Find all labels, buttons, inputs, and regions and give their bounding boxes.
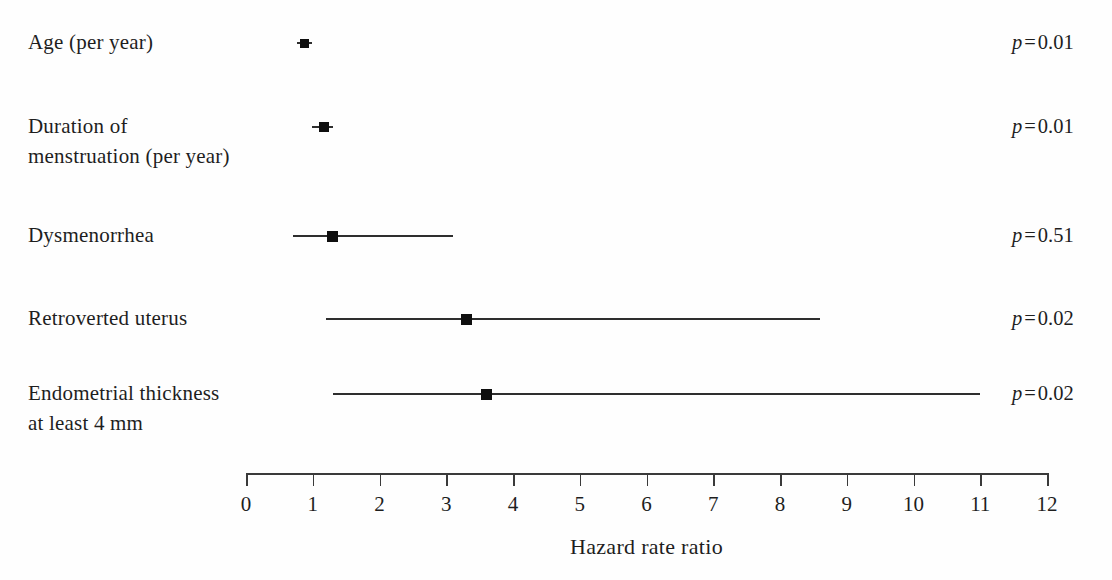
equals-sign: = [1024,224,1036,246]
x-axis-tick [713,473,715,486]
row-label-line: Duration of [28,111,230,141]
row-label: Duration ofmenstruation (per year) [28,111,230,171]
p-value-label: p=0.51 [1012,221,1074,249]
p-value: 0.01 [1038,31,1074,53]
forest-plot-figure: Age (per year)p=0.01Duration ofmenstruat… [0,0,1112,580]
x-axis-tick [446,473,448,486]
row-label: Retroverted uterus [28,303,187,333]
estimate-marker [319,122,329,132]
p-symbol: p [1012,115,1022,137]
equals-sign: = [1024,382,1036,404]
x-axis-tick-label: 8 [775,492,786,517]
x-axis-tick [1047,473,1049,486]
x-axis-title: Hazard rate ratio [246,534,1047,560]
p-symbol: p [1012,307,1022,329]
p-value: 0.51 [1038,224,1074,246]
estimate-marker [327,231,338,242]
p-symbol: p [1012,224,1022,246]
x-axis-tick-label: 11 [970,492,990,517]
x-axis-tick-label: 0 [241,492,252,517]
p-value-label: p=0.01 [1012,112,1074,140]
equals-sign: = [1024,307,1036,329]
row-label-line: Dysmenorrhea [28,220,154,250]
x-axis-tick-label: 4 [508,492,519,517]
estimate-marker [300,39,309,48]
equals-sign: = [1024,31,1036,53]
x-axis-tick [780,473,782,486]
x-axis-tick-label: 2 [374,492,385,517]
ci-line [326,318,820,320]
row-label: Age (per year) [28,27,153,57]
p-value: 0.01 [1038,115,1074,137]
x-axis-tick [980,473,982,486]
x-axis-tick-label: 7 [708,492,719,517]
p-value: 0.02 [1038,307,1074,329]
x-axis-tick [246,473,248,486]
x-axis-tick-label: 6 [641,492,652,517]
x-axis-tick [380,473,382,486]
x-axis-tick [647,473,649,486]
row-label-line: Retroverted uterus [28,303,187,333]
row-label-line: Endometrial thickness [28,378,219,408]
row-label-line: menstruation (per year) [28,141,230,171]
x-axis-tick-label: 3 [441,492,452,517]
p-symbol: p [1012,382,1022,404]
x-axis-tick-label: 1 [308,492,319,517]
x-axis-tick [847,473,849,486]
estimate-marker [461,314,472,325]
row-label-line: at least 4 mm [28,408,219,438]
x-axis-tick [513,473,515,486]
p-symbol: p [1012,31,1022,53]
p-value: 0.02 [1038,382,1074,404]
p-value-label: p=0.02 [1012,379,1074,407]
x-axis-tick-label: 9 [842,492,853,517]
x-axis-tick [580,473,582,486]
x-axis-tick-label: 5 [575,492,586,517]
ci-line [293,235,453,237]
row-label: Endometrial thicknessat least 4 mm [28,378,219,438]
estimate-marker [481,389,492,400]
x-axis-tick [313,473,315,486]
x-axis-tick [914,473,916,486]
x-axis-tick-label: 10 [903,492,924,517]
p-value-label: p=0.01 [1012,28,1074,56]
x-axis-tick-label: 12 [1037,492,1058,517]
row-label: Dysmenorrhea [28,220,154,250]
equals-sign: = [1024,115,1036,137]
ci-line [333,393,980,395]
p-value-label: p=0.02 [1012,304,1074,332]
row-label-line: Age (per year) [28,27,153,57]
